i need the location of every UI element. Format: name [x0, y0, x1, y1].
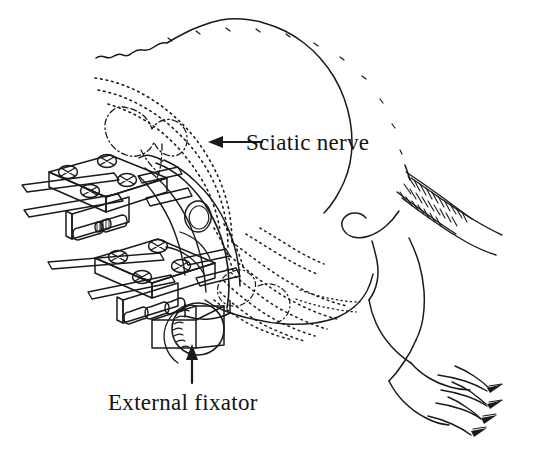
fixator-knob-assembly — [152, 303, 224, 363]
annotation-external-fixator: External fixator — [108, 344, 258, 415]
paw-toes — [428, 366, 490, 435]
figure-container: Sciatic nerve External fixator — [0, 0, 557, 459]
screw-head — [81, 185, 100, 198]
screw-head — [149, 240, 168, 253]
fixator-pins-lower — [48, 249, 240, 299]
fixator-connector-upper — [66, 197, 129, 240]
tail — [397, 172, 502, 255]
annotation-sciatic-nerve: Sciatic nerve — [208, 130, 369, 155]
external-fixator-device — [22, 155, 240, 364]
anatomical-line-drawing: Sciatic nerve External fixator — [0, 0, 557, 459]
sciatic-nerve-label: Sciatic nerve — [246, 130, 369, 155]
screw-head — [118, 174, 137, 187]
fixator-lower-plate — [95, 239, 215, 298]
screw-head — [172, 260, 191, 273]
external-fixator-arrow — [186, 344, 198, 383]
external-fixator-label: External fixator — [108, 390, 258, 415]
hind-limb — [342, 211, 503, 437]
